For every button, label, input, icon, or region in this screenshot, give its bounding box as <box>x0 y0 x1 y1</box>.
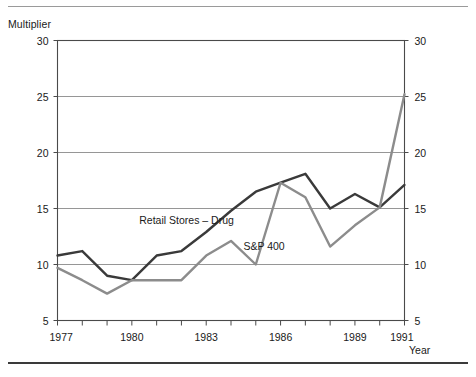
ytick-label-left-25: 25 <box>37 91 49 103</box>
ytick-label-right-25: 25 <box>415 91 427 103</box>
series-line-sp-400 <box>58 94 405 293</box>
xtick-label-1980: 1980 <box>120 331 144 343</box>
ytick-label-right-5: 5 <box>415 315 421 327</box>
ytick-label-right-15: 15 <box>415 203 427 215</box>
ytick-label-left-20: 20 <box>37 147 49 159</box>
xtick-label-1986: 1986 <box>269 331 293 343</box>
xtick-label-1977: 1977 <box>50 331 74 343</box>
x-axis-title: Year <box>409 344 430 356</box>
xtick-label-1989: 1989 <box>343 331 367 343</box>
series-label-retail-stores-drug: Retail Stores – Drug <box>139 214 234 226</box>
ytick-label-left-15: 15 <box>37 203 49 215</box>
ytick-label-left-5: 5 <box>43 315 49 327</box>
chart-plot-area: 5510101515202025253030197719801983198619… <box>0 0 476 377</box>
plot-frame <box>58 41 405 321</box>
ytick-label-left-10: 10 <box>37 259 49 271</box>
ytick-label-left-30: 30 <box>37 35 49 47</box>
ytick-label-right-30: 30 <box>415 35 427 47</box>
ytick-label-right-20: 20 <box>415 147 427 159</box>
ytick-label-right-10: 10 <box>415 259 427 271</box>
xtick-label-1991: 1991 <box>390 331 414 343</box>
xtick-label-1983: 1983 <box>195 331 219 343</box>
chart-svg: 5510101515202025253030197719801983198619… <box>0 0 476 377</box>
series-label-sp-400: S&P 400 <box>243 240 284 252</box>
bottom-divider-rule <box>8 362 468 364</box>
